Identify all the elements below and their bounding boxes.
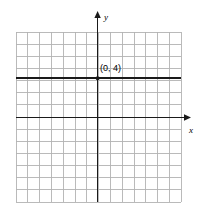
y-axis <box>94 11 100 202</box>
point-coordinate-label: (0, 4) <box>100 64 121 73</box>
plotted-line-series <box>16 76 181 80</box>
x-axis <box>16 114 191 120</box>
coordinate-plane-svg <box>0 0 207 218</box>
data-point-marker <box>96 76 100 80</box>
x-axis-label: x <box>189 126 193 135</box>
y-axis-label: y <box>104 13 108 22</box>
y-axis-arrowhead <box>94 11 100 18</box>
coordinate-plane-figure: y x (0, 4) <box>0 0 207 218</box>
x-axis-arrowhead <box>184 114 191 120</box>
